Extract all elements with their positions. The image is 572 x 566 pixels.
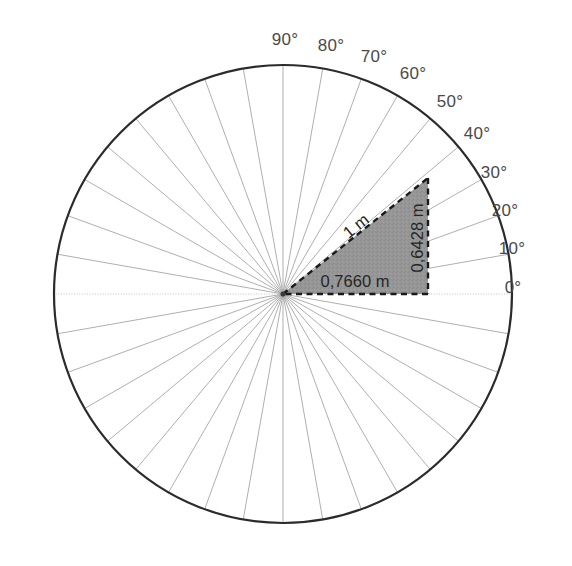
polar-diagram-svg	[0, 0, 572, 566]
angle-tick-label-80: 80°	[318, 36, 344, 56]
radial-spoke-160	[68, 216, 283, 294]
angle-tick-label-0: 0°	[505, 278, 522, 298]
radial-spoke-110	[205, 79, 283, 294]
radial-spoke-290	[283, 294, 361, 509]
radial-spoke-320	[283, 294, 458, 441]
angle-tick-label-10: 10°	[499, 239, 525, 259]
polar-diagram-figure: 0°10°20°30°40°50°60°70°80°90° 1 m 0,6428…	[0, 0, 572, 566]
angle-tick-label-20: 20°	[492, 201, 518, 221]
angle-tick-label-90: 90°	[272, 30, 298, 50]
radial-spoke-230	[136, 294, 283, 469]
angle-tick-label-50: 50°	[437, 92, 463, 112]
radial-spoke-200	[68, 294, 283, 372]
angle-tick-label-60: 60°	[400, 64, 426, 84]
opposite-length-label: 0,6428 m	[408, 204, 427, 273]
radial-spoke-340	[283, 294, 498, 372]
angle-tick-label-40: 40°	[464, 124, 490, 144]
radial-spoke-140	[108, 147, 283, 294]
radial-spoke-250	[205, 294, 283, 509]
center-point	[281, 292, 286, 297]
radial-spoke-310	[283, 294, 430, 469]
radial-spoke-220	[108, 294, 283, 441]
angle-tick-label-70: 70°	[361, 47, 387, 67]
angle-tick-label-30: 30°	[481, 163, 507, 183]
adjacent-length-label: 0,7660 m	[321, 272, 390, 291]
radial-spoke-130	[136, 119, 283, 294]
